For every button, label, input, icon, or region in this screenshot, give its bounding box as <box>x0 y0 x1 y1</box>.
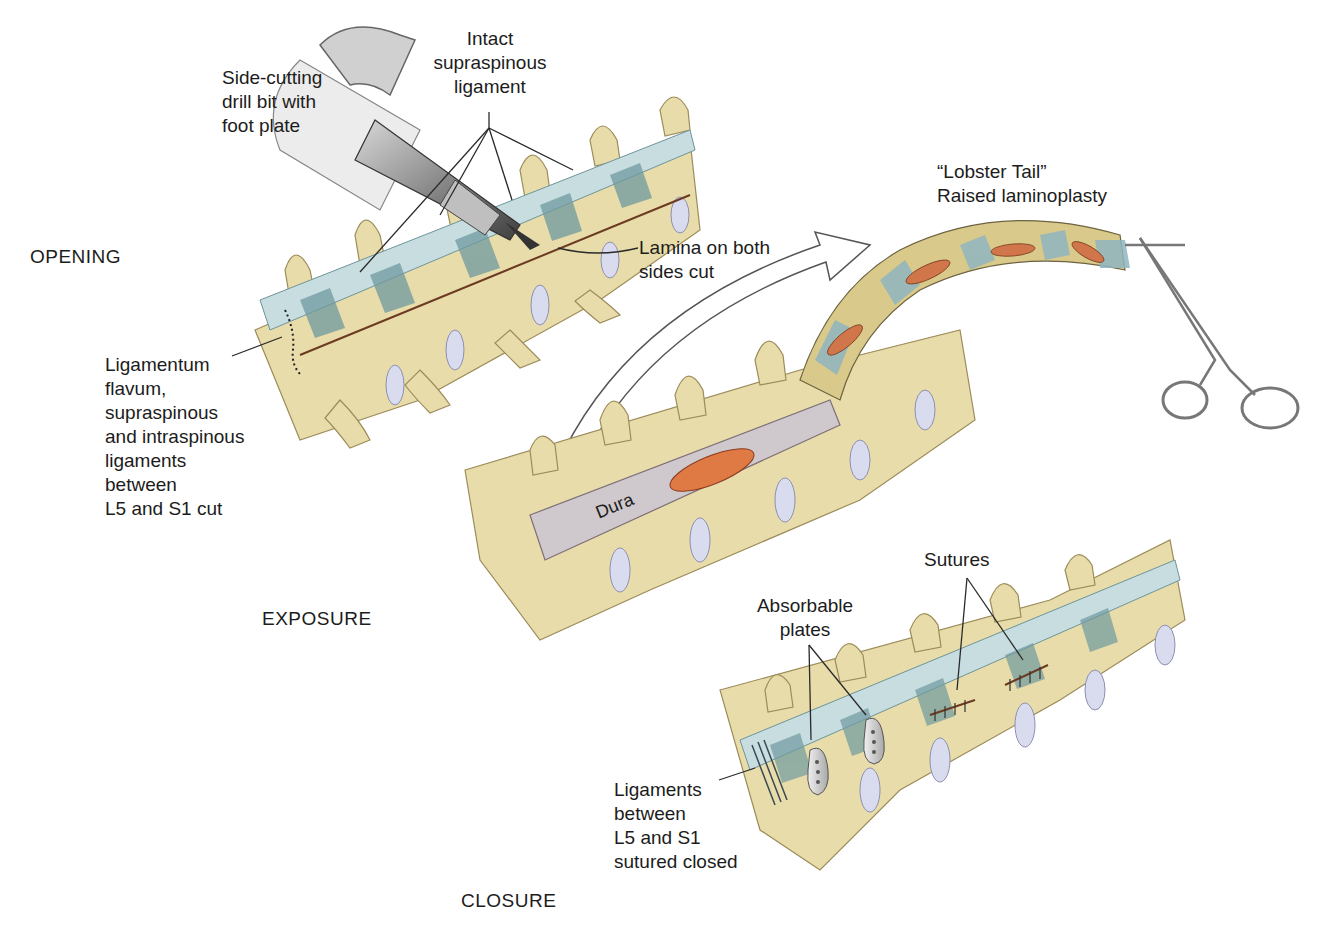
label-lamina-cut: Lamina on both sides cut <box>639 236 770 284</box>
label-absorbable-plates: Absorbable plates <box>740 594 870 642</box>
label-drill-bit: Side-cutting drill bit with foot plate <box>222 66 322 138</box>
stage-label-exposure: EXPOSURE <box>262 608 372 630</box>
label-sutures: Sutures <box>924 548 989 572</box>
forceps-icon <box>1125 238 1298 428</box>
label-ligaments-sutured: Ligaments between L5 and S1 sutured clos… <box>614 778 738 874</box>
closure-spine <box>720 540 1185 870</box>
label-ligaments-cut: Ligamentum flavum, supraspinous and intr… <box>105 353 244 521</box>
label-lobster-tail: “Lobster Tail” Raised laminoplasty <box>937 160 1107 208</box>
stage-label-opening: OPENING <box>30 246 121 268</box>
label-intact-supraspinous-ligament: Intact supraspinous ligament <box>420 27 560 99</box>
stage-label-closure: CLOSURE <box>461 890 556 912</box>
